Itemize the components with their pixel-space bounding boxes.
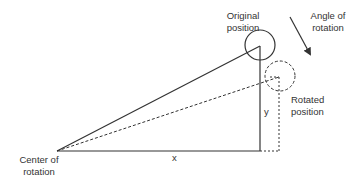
hypotenuse-original xyxy=(57,46,260,151)
center-of-rotation-label: Center of rotation xyxy=(14,154,64,178)
rotated-position-label: Rotated position xyxy=(291,94,324,118)
y-label: y xyxy=(264,106,269,118)
hypotenuse-rotated xyxy=(57,77,279,151)
original-position-label: Original position xyxy=(216,10,270,34)
x-label: x xyxy=(172,152,177,164)
rotated-position-circle xyxy=(265,61,295,91)
angle-of-rotation-label: Angle of rotation xyxy=(303,10,353,34)
